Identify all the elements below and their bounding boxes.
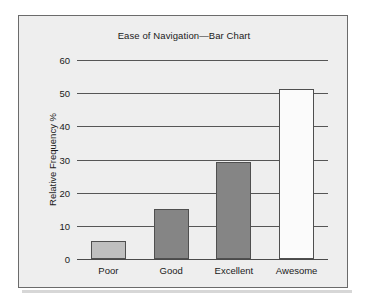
x-axis-tick-labels: PoorGoodExcellentAwesome: [77, 265, 328, 281]
figure-frame: Ease of Navigation—Bar Chart Relative Fr…: [18, 15, 348, 288]
bar-excellent: [216, 162, 251, 259]
y-axis-tick-label: 0: [65, 254, 70, 265]
y-axis-tick-label: 40: [59, 121, 70, 132]
bar-good: [154, 209, 189, 259]
y-axis-tick-label: 60: [59, 55, 70, 66]
y-axis-title: Relative Frequency %: [45, 60, 59, 259]
screenshot-root: Ease of Navigation—Bar Chart Relative Fr…: [0, 0, 367, 306]
plot-area: 0102030405060: [77, 60, 328, 259]
y-axis-tick-label: 50: [59, 88, 70, 99]
figure-shadow: [22, 290, 352, 293]
x-axis-tick-label: Good: [160, 265, 183, 276]
y-axis-title-text: Relative Frequency %: [47, 113, 58, 206]
x-axis-tick-label: Excellent: [215, 265, 254, 276]
y-axis-tick-label: 30: [59, 154, 70, 165]
chart-title: Ease of Navigation—Bar Chart: [19, 30, 349, 41]
x-axis-tick-label: Poor: [98, 265, 118, 276]
bar-poor: [91, 241, 126, 259]
gridline: 60: [77, 60, 328, 61]
x-axis-baseline: 0: [77, 259, 328, 260]
y-axis-tick-label: 20: [59, 187, 70, 198]
bar-awesome: [279, 89, 314, 259]
x-axis-tick-label: Awesome: [276, 265, 318, 276]
y-axis-tick-label: 10: [59, 220, 70, 231]
